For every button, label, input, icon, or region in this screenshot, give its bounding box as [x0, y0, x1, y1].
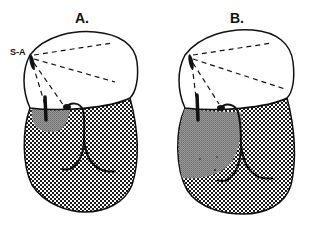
left-lead — [197, 95, 198, 120]
heart-diagram-a — [0, 0, 155, 229]
panel-b: B. — [155, 0, 310, 229]
panel-a: A. S-A — [0, 0, 155, 229]
left-lead — [45, 97, 46, 120]
atria — [24, 32, 138, 110]
heart-diagram-b — [155, 0, 310, 229]
